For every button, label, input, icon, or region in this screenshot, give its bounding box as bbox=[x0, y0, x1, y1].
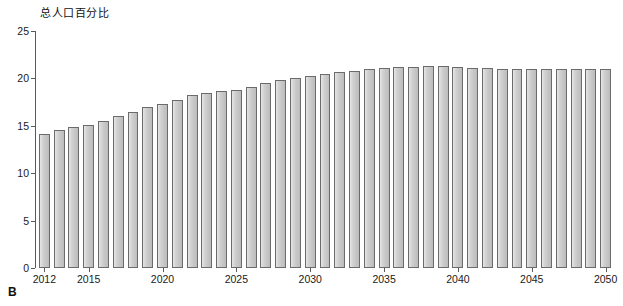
bar bbox=[172, 100, 183, 268]
bar bbox=[290, 78, 301, 268]
bar bbox=[246, 87, 257, 268]
x-tick-mark bbox=[44, 268, 45, 272]
x-tick-label: 2025 bbox=[225, 274, 248, 285]
x-tick-mark bbox=[532, 268, 533, 272]
bar bbox=[320, 74, 331, 268]
bar bbox=[526, 69, 537, 268]
x-tick-label: 2035 bbox=[372, 274, 395, 285]
bar bbox=[54, 130, 65, 268]
bar bbox=[98, 121, 109, 268]
bar bbox=[467, 68, 478, 268]
y-tick-label: 25 bbox=[17, 26, 29, 37]
x-tick-label: 2012 bbox=[33, 274, 56, 285]
bar bbox=[260, 83, 271, 268]
x-tick-mark bbox=[89, 268, 90, 272]
bar bbox=[201, 93, 212, 268]
bar bbox=[142, 107, 153, 268]
panel-label: B bbox=[8, 286, 17, 298]
y-tick-mark bbox=[31, 126, 35, 127]
bar bbox=[334, 72, 345, 268]
bar bbox=[571, 69, 582, 268]
x-tick-label: 2050 bbox=[594, 274, 617, 285]
bar bbox=[541, 69, 552, 268]
bar bbox=[157, 104, 168, 268]
bar bbox=[275, 80, 286, 268]
x-tick-mark bbox=[163, 268, 164, 272]
x-tick-mark bbox=[236, 268, 237, 272]
y-tick-mark bbox=[31, 31, 35, 32]
x-tick-label: 2015 bbox=[77, 274, 100, 285]
chart-title: 总人口百分比 bbox=[40, 4, 109, 20]
plot-area: 0510152025 bbox=[35, 31, 613, 268]
x-tick-mark bbox=[458, 268, 459, 272]
x-tick-label: 2040 bbox=[446, 274, 469, 285]
bar bbox=[482, 68, 493, 268]
x-tick-mark bbox=[606, 268, 607, 272]
x-axis-ticks: 201220152020202520302035204020452050 bbox=[35, 268, 613, 298]
bar bbox=[305, 76, 316, 268]
bar bbox=[113, 116, 124, 268]
y-tick-label: 20 bbox=[17, 73, 29, 84]
bar bbox=[556, 69, 567, 268]
x-tick-label: 2045 bbox=[520, 274, 543, 285]
bar bbox=[423, 66, 434, 268]
bar bbox=[438, 66, 449, 268]
bar-series bbox=[36, 31, 613, 268]
bar bbox=[379, 68, 390, 268]
bar bbox=[216, 91, 227, 268]
bar bbox=[39, 134, 50, 268]
bar bbox=[68, 127, 79, 268]
x-tick-mark bbox=[310, 268, 311, 272]
bar bbox=[408, 67, 419, 268]
bar bbox=[393, 67, 404, 268]
bar bbox=[497, 69, 508, 268]
bar bbox=[128, 112, 139, 268]
y-tick-label: 15 bbox=[17, 121, 29, 132]
y-tick-label: 5 bbox=[23, 215, 29, 226]
bar bbox=[585, 69, 596, 268]
bar bbox=[231, 90, 242, 268]
y-tick-mark bbox=[31, 78, 35, 79]
y-tick-label: 10 bbox=[17, 168, 29, 179]
x-tick-mark bbox=[384, 268, 385, 272]
bar bbox=[452, 67, 463, 268]
bar bbox=[83, 125, 94, 268]
x-tick-label: 2030 bbox=[299, 274, 322, 285]
bar bbox=[512, 69, 523, 268]
bar bbox=[187, 95, 198, 268]
y-tick-mark bbox=[31, 173, 35, 174]
bar bbox=[600, 69, 611, 268]
y-tick-mark bbox=[31, 221, 35, 222]
bar bbox=[364, 69, 375, 268]
x-tick-label: 2020 bbox=[151, 274, 174, 285]
chart-figure: 总人口百分比 0510152025 2012201520202025203020… bbox=[0, 0, 623, 306]
bar bbox=[349, 71, 360, 268]
y-tick-label: 0 bbox=[23, 263, 29, 274]
